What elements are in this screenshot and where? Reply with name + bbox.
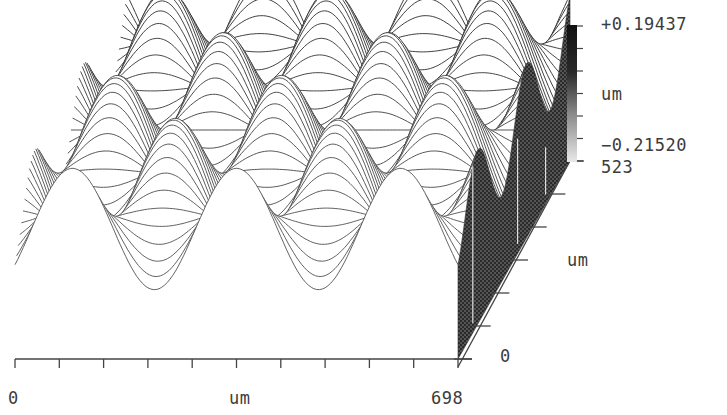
z-min-label: −0.21520: [601, 135, 687, 155]
surface-plot: [0, 0, 727, 415]
z-unit-label: um: [601, 84, 622, 104]
y-unit-label: um: [567, 250, 588, 270]
y-min-label: 0: [500, 346, 511, 366]
colorbar: [567, 25, 583, 162]
y-max-label: 523: [601, 157, 633, 177]
x-unit-label: um: [229, 388, 250, 408]
z-max-label: +0.19437: [601, 14, 687, 34]
x-min-label: 0: [8, 388, 19, 408]
x-max-label: 698: [431, 388, 463, 408]
